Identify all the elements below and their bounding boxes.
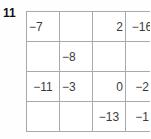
- grid-cell-r2c2[interactable]: −8: [60, 42, 93, 72]
- grid-cell-r1c1[interactable]: −7: [27, 12, 60, 42]
- grid-cell-r2c3[interactable]: [93, 42, 126, 72]
- worksheet-grid-problem: 11 −7 2 −16 −8 −11 −3 0 −2: [0, 0, 150, 139]
- grid-cell-r3c3[interactable]: 0: [93, 72, 126, 102]
- number-grid-body: −7 2 −16 −8 −11 −3 0 −2 −13 −: [27, 12, 151, 132]
- table-row: −11 −3 0 −2: [27, 72, 151, 102]
- grid-cell-r4c3[interactable]: −13: [93, 102, 126, 132]
- grid-cell-r2c1[interactable]: [27, 42, 60, 72]
- grid-cell-r4c2[interactable]: [60, 102, 93, 132]
- grid-cell-r3c2[interactable]: −3: [60, 72, 93, 102]
- problem-number-label: 11: [3, 7, 16, 20]
- table-row: −7 2 −16: [27, 12, 151, 42]
- grid-cell-r1c4[interactable]: −16: [126, 12, 151, 42]
- table-row: −13 −1: [27, 102, 151, 132]
- grid-cell-r1c3[interactable]: 2: [93, 12, 126, 42]
- number-grid-table: −7 2 −16 −8 −11 −3 0 −2 −13 −: [26, 11, 150, 132]
- grid-cell-r4c1[interactable]: [27, 102, 60, 132]
- grid-cell-r2c4[interactable]: [126, 42, 151, 72]
- grid-cell-r1c2[interactable]: [60, 12, 93, 42]
- grid-cell-r3c4[interactable]: −2: [126, 72, 151, 102]
- table-row: −8: [27, 42, 151, 72]
- grid-cell-r4c4[interactable]: −1: [126, 102, 151, 132]
- grid-cell-r3c1[interactable]: −11: [27, 72, 60, 102]
